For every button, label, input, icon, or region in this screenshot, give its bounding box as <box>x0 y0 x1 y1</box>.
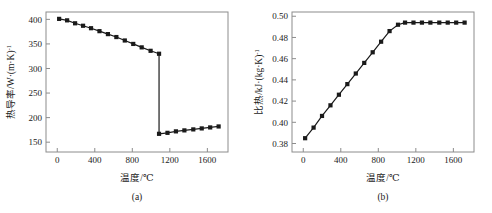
data-point <box>140 45 144 49</box>
data-point <box>303 136 307 140</box>
data-point <box>437 21 441 25</box>
data-point <box>403 21 407 25</box>
data-point <box>174 129 178 133</box>
y-tick-label: 250 <box>29 88 43 98</box>
data-point <box>81 24 85 28</box>
data-point <box>328 103 332 107</box>
y-axis-title-exponent: -1 <box>5 45 12 50</box>
data-point <box>182 128 186 132</box>
data-point <box>73 21 77 25</box>
y-tick-label: 0.42 <box>272 96 288 106</box>
y-tick-label: 0.50 <box>272 11 288 21</box>
data-point <box>191 127 195 131</box>
data-point <box>97 29 101 33</box>
data-point <box>157 52 161 56</box>
y-axis-title-group: 热导率/W·(m·K)-1 <box>5 45 17 119</box>
specific-heat-plot: 0400800120016000.380.400.420.440.460.480… <box>246 0 492 213</box>
data-point <box>89 26 93 30</box>
data-point <box>217 124 221 128</box>
y-tick-label: 300 <box>29 64 43 74</box>
data-point <box>157 132 161 136</box>
panel-a: 040080012001600150200250300350400温度/℃(a)… <box>0 0 246 213</box>
x-tick-label: 400 <box>88 155 102 165</box>
x-tick-label: 0 <box>55 155 60 165</box>
y-axis-title-group: 比热/kJ·(kg·K)-1 <box>253 49 265 115</box>
x-axis-title: 温度/℃ <box>120 172 154 183</box>
data-point <box>411 21 415 25</box>
x-tick-label: 1200 <box>407 155 426 165</box>
y-tick-label: 400 <box>29 15 43 25</box>
x-tick-label: 0 <box>301 155 306 165</box>
x-tick-label: 400 <box>334 155 348 165</box>
data-point <box>165 131 169 135</box>
data-point <box>454 21 458 25</box>
x-tick-label: 1600 <box>444 155 463 165</box>
data-point <box>446 21 450 25</box>
data-point <box>428 21 432 25</box>
y-tick-label: 0.38 <box>272 139 288 149</box>
y-tick-label: 0.48 <box>272 33 288 43</box>
y-axis-title-exponent: -1 <box>253 49 260 54</box>
y-axis-title-main: 比热/kJ·(kg·K) <box>253 55 265 115</box>
data-point <box>123 38 127 42</box>
y-tick-label: 0.46 <box>272 54 288 64</box>
data-point <box>57 17 61 21</box>
data-point <box>362 61 366 65</box>
data-point <box>354 71 358 75</box>
x-tick-label: 800 <box>372 155 386 165</box>
y-axis-title-main: 热导率/W·(m·K) <box>5 50 17 119</box>
y-tick-label: 0.40 <box>272 118 288 128</box>
x-tick-label: 1600 <box>198 155 217 165</box>
plot-frame <box>292 12 474 152</box>
data-point <box>311 126 315 130</box>
data-point <box>396 23 400 27</box>
data-point <box>379 40 383 44</box>
data-point <box>114 35 118 39</box>
data-point <box>337 93 341 97</box>
data-point <box>463 21 467 25</box>
data-point <box>387 29 391 33</box>
y-tick-label: 350 <box>29 39 43 49</box>
data-point <box>371 50 375 54</box>
thermal-conductivity-plot: 040080012001600150200250300350400温度/℃(a)… <box>0 0 246 213</box>
panel-caption: (a) <box>132 192 143 203</box>
x-tick-label: 800 <box>126 155 140 165</box>
figure-container: 040080012001600150200250300350400温度/℃(a)… <box>0 0 492 213</box>
data-point <box>208 125 212 129</box>
y-axis-title: 比热/kJ·(kg·K)-1 <box>253 49 265 115</box>
data-point <box>345 82 349 86</box>
x-tick-label: 1200 <box>161 155 180 165</box>
data-point <box>106 32 110 36</box>
data-point <box>131 42 135 46</box>
panel-b: 0400800120016000.380.400.420.440.460.480… <box>246 0 492 213</box>
data-point <box>65 18 69 22</box>
y-tick-label: 200 <box>29 113 43 123</box>
data-point <box>200 126 204 130</box>
panel-caption: (b) <box>377 192 388 203</box>
plot-frame <box>46 12 228 152</box>
y-tick-label: 150 <box>29 137 43 147</box>
data-point <box>320 114 324 118</box>
x-axis-title: 温度/℃ <box>366 172 400 183</box>
data-point <box>420 21 424 25</box>
data-point <box>149 49 153 53</box>
y-tick-label: 0.44 <box>272 75 288 85</box>
y-axis-title: 热导率/W·(m·K)-1 <box>5 45 17 119</box>
